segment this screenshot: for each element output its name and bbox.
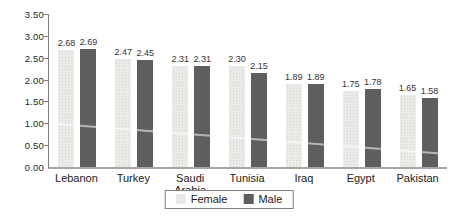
bar-male-tunisia: 2.15 [251,73,267,167]
female-swatch-icon [176,194,186,204]
bar-female-lebanon: 2.68 [58,50,74,167]
bar-male-egypt: 1.78 [365,89,381,167]
legend-item-male: Male [243,193,282,205]
x-axis-label-pakistan: Pakistan [389,172,446,196]
y-tick-label: 1.50 [4,96,44,107]
bar-group-saudi-arabia: 2.312.31 [163,14,220,167]
plot-area: 2.682.692.472.452.312.312.302.151.891.89… [48,14,447,169]
bar-value-label: 2.31 [171,54,189,64]
x-axis-label-lebanon: Lebanon [48,172,105,196]
bar-value-label: 1.89 [307,72,325,82]
bar-male-iraq: 1.89 [308,84,324,167]
bar-value-label: 1.78 [364,77,382,87]
bar-female-pakistan: 1.65 [400,95,416,167]
bar-female-saudi-arabia: 2.31 [172,66,188,167]
y-tick-label: 1.00 [4,118,44,129]
bar-group-pakistan: 1.651.58 [390,14,447,167]
bar-male-saudi-arabia: 2.31 [194,66,210,167]
bar-female-tunisia: 2.30 [229,66,245,167]
bar-value-label: 1.75 [342,79,360,89]
bar-female-iraq: 1.89 [286,84,302,167]
bar-value-label: 1.58 [421,86,439,96]
y-tick-label: 0.50 [4,140,44,151]
bar-group-iraq: 1.891.89 [276,14,333,167]
bar-value-label: 2.47 [115,47,133,57]
bar-male-pakistan: 1.58 [422,98,438,167]
bar-male-turkey: 2.45 [137,60,153,167]
grouped-bar-chart: 3.503.002.502.001.501.000.500.00 2.682.6… [0,0,458,222]
legend: Female Male [165,190,294,209]
legend-label-female: Female [191,193,228,205]
x-axis-label-egypt: Egypt [332,172,389,196]
legend-item-female: Female [176,193,228,205]
bar-value-label: 1.65 [399,83,417,93]
y-tick-label: 3.50 [4,9,44,20]
bar-female-egypt: 1.75 [343,91,359,168]
bar-group-turkey: 2.472.45 [106,14,163,167]
x-axis-label-turkey: Turkey [105,172,162,196]
male-swatch-icon [243,194,253,204]
bar-value-label: 2.15 [250,61,268,71]
bar-group-tunisia: 2.302.15 [220,14,277,167]
bar-female-turkey: 2.47 [115,59,131,167]
y-tick-label: 2.00 [4,74,44,85]
y-tick-label: 3.00 [4,30,44,41]
bar-value-label: 2.31 [193,54,211,64]
legend-label-male: Male [258,193,282,205]
bar-value-label: 2.69 [80,37,98,47]
bar-value-label: 2.45 [137,48,155,58]
bar-male-lebanon: 2.69 [80,49,96,167]
y-tick-label: 2.50 [4,52,44,63]
bar-value-label: 1.89 [285,72,303,82]
bar-groups: 2.682.692.472.452.312.312.302.151.891.89… [49,14,447,167]
bar-value-label: 2.68 [58,38,76,48]
y-tick-label: 0.00 [4,162,44,173]
bar-group-lebanon: 2.682.69 [49,14,106,167]
bar-group-egypt: 1.751.78 [333,14,390,167]
bar-value-label: 2.30 [228,54,246,64]
